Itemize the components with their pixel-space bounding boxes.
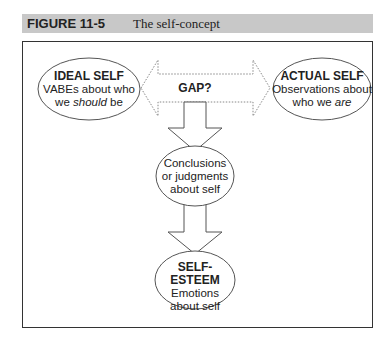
down-arrow-2 — [168, 204, 222, 254]
down-arrow-1 — [168, 102, 222, 151]
ideal-self-node: IDEAL SELF VABEs about who we should be — [38, 70, 140, 109]
actual-self-node: ACTUAL SELF Observations about who we ar… — [272, 70, 372, 109]
gap-label: GAP? — [170, 82, 220, 95]
conclusions-node: Conclusions or judgments about self — [156, 157, 234, 196]
self-esteem-node: SELF-ESTEEM Emotions about self — [155, 261, 235, 313]
